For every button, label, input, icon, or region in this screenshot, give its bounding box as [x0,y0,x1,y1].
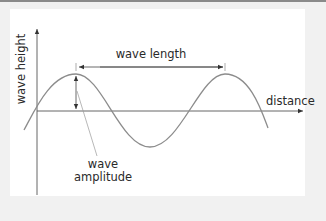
amplitude-label-line1: wave [88,157,118,171]
x-axis-label: distance [266,94,315,108]
wave-diagram: wave height distance wave length wave am… [0,0,326,221]
wave-length-label: wave length [116,47,187,61]
y-axis-label: wave height [14,33,28,104]
wave-curve [24,74,268,147]
amplitude-leader-line [77,91,97,156]
amplitude-label-line2: amplitude [74,170,132,184]
